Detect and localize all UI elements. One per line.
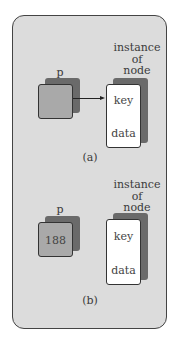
caption-b: (b) (75, 295, 105, 306)
pointer-arrow (73, 98, 101, 99)
arrowhead-icon (100, 96, 105, 100)
node-label-line-3: node (112, 65, 162, 76)
node-instance-box: key data (106, 84, 141, 148)
node-field-key: key (107, 230, 140, 243)
node-field-data: data (107, 264, 140, 277)
caption-a: (a) (75, 152, 105, 163)
pointer-label: p (50, 204, 70, 215)
node-label-line-3: node (112, 202, 162, 213)
node-label-line-1: instance (112, 42, 162, 53)
node-label-line-1: instance (112, 179, 162, 190)
node-field-key: key (107, 94, 140, 107)
node-field-data: data (107, 127, 140, 140)
pointer-variable-box (38, 84, 73, 119)
pointer-value: 188 (39, 234, 72, 247)
node-instance-box: key data (106, 219, 141, 285)
pointer-variable-box: 188 (38, 222, 73, 257)
pointer-label: p (50, 67, 70, 78)
